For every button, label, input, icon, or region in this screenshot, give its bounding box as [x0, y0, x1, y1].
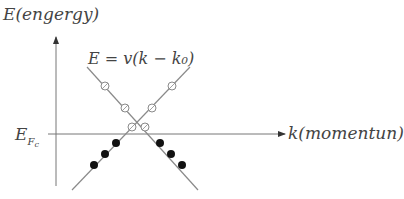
momentum-axis-label: k(momentun) — [288, 125, 404, 142]
filled-state-dot — [101, 150, 109, 158]
dispersion-equation: E = v(k − k₀) — [88, 51, 194, 67]
fermi-level-main: E — [15, 124, 27, 144]
filled-state-dot — [90, 161, 98, 169]
filled-state-dot — [112, 139, 120, 147]
filled-state-dot — [156, 139, 164, 147]
occupied-states — [90, 139, 186, 169]
filled-state-dot — [178, 161, 186, 169]
fermi-level-subsub: c — [34, 140, 38, 149]
filled-state-dot — [167, 150, 175, 158]
energy-axis-label: E(engergy) — [3, 6, 99, 23]
fermi-level-label: EFc — [15, 126, 39, 149]
